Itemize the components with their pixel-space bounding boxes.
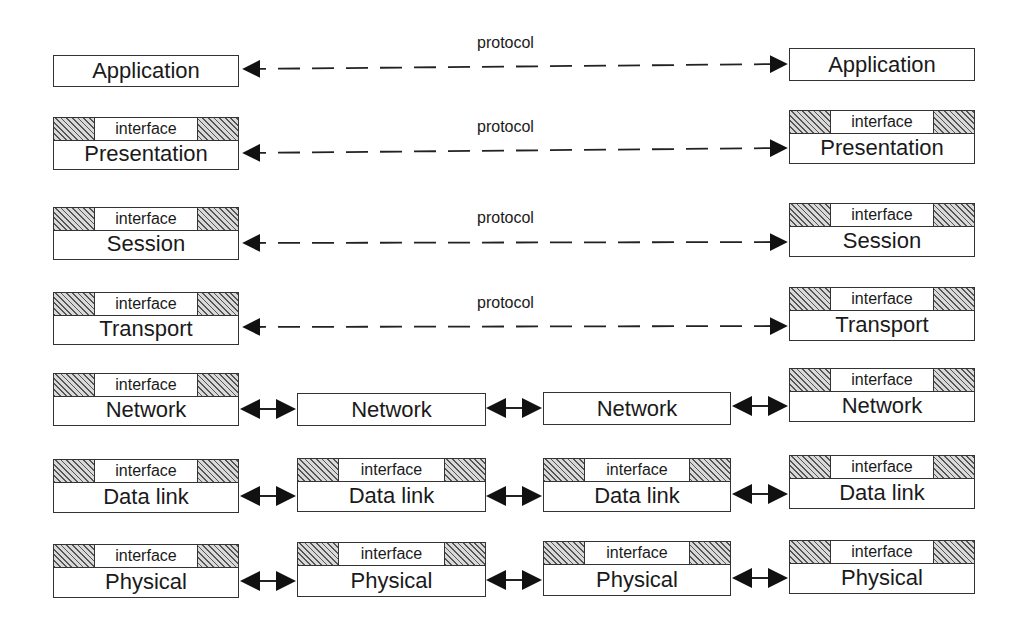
protocol-label: protocol: [477, 209, 534, 227]
router2-physical-layer: interfacePhysical: [543, 541, 731, 596]
router1-datalink-layer: interfaceData link: [297, 458, 486, 512]
right-datalink-layer: interfaceData link: [789, 455, 975, 509]
right-transport-layer: interfaceTransport: [789, 287, 975, 341]
router1-physical-layer: interfacePhysical: [297, 542, 486, 597]
left-physical-layer: interfacePhysical: [53, 544, 239, 598]
protocol-label: protocol: [477, 118, 534, 136]
router1-network-layer: Network: [297, 393, 486, 426]
router2-datalink-layer: interfaceData link: [543, 458, 731, 512]
left-presentation-layer: interfacePresentation: [53, 117, 239, 170]
right-network-layer: interfaceNetwork: [789, 368, 975, 422]
right-application-layer: Application: [789, 48, 975, 81]
right-session-layer: interfaceSession: [789, 203, 975, 257]
left-network-layer: interfaceNetwork: [53, 373, 239, 426]
left-transport-layer: interfaceTransport: [53, 292, 239, 345]
left-application-layer: Application: [53, 55, 239, 87]
left-session-layer: interfaceSession: [53, 207, 239, 260]
right-physical-layer: interfacePhysical: [789, 540, 975, 594]
left-datalink-layer: interfaceData link: [53, 459, 239, 513]
right-presentation-layer: interfacePresentation: [789, 110, 975, 164]
protocol-label: protocol: [477, 34, 534, 52]
protocol-label: protocol: [477, 294, 534, 312]
router2-network-layer: Network: [543, 392, 731, 425]
